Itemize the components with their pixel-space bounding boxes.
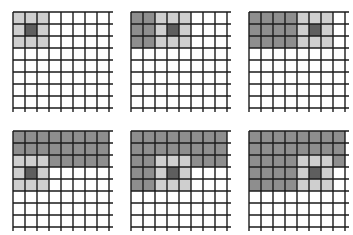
kernel-cell [25,155,37,167]
grid-cell-processed [167,131,179,143]
grid-cell-processed [37,131,49,143]
kernel-cell [179,12,191,24]
kernel-cell [37,24,49,36]
kernel-cell [179,179,191,191]
grid-cell-processed [85,143,97,155]
grid-cell-processed [97,143,109,155]
grid-cell-processed [167,143,179,155]
grid-cell-processed [285,167,297,179]
grid-cell-processed [131,143,143,155]
grid-cell-processed [131,155,143,167]
kernel-center-cell [167,24,179,36]
grid-cell-processed [249,24,261,36]
grid-cell-processed [273,155,285,167]
grid-cell-processed [61,131,73,143]
kernel-cell [37,12,49,24]
grid-cell-processed [203,131,215,143]
grid-cell-processed [249,179,261,191]
grid-cell-processed [13,143,25,155]
grid-cell-processed [73,143,85,155]
kernel-cell [321,12,333,24]
grid-panel-step-5 [131,131,235,235]
kernel-center-cell [167,167,179,179]
kernel-cell [297,167,309,179]
grid-cell-processed [131,36,143,48]
grid-cell-processed [73,131,85,143]
grid-cell-processed [179,143,191,155]
grid-cell-processed [25,143,37,155]
grid-cell-processed [249,155,261,167]
grid-panel-step-1 [13,12,117,116]
grid-cell-processed [97,131,109,143]
grid-cell-processed [273,143,285,155]
grid-cell-processed [143,167,155,179]
kernel-cell [167,12,179,24]
grid-cell-processed [215,131,227,143]
kernel-cell [309,179,321,191]
kernel-cell [321,179,333,191]
kernel-cell [297,12,309,24]
kernel-cell [321,155,333,167]
kernel-cell [321,167,333,179]
grid-cell-processed [285,12,297,24]
grid-cell-processed [309,143,321,155]
kernel-cell [37,167,49,179]
grid-cell-processed [85,131,97,143]
grid-cell-processed [285,143,297,155]
grid-cell-processed [273,12,285,24]
grid-cell-processed [261,24,273,36]
kernel-cell [309,155,321,167]
kernel-cell [37,155,49,167]
kernel-cell [13,36,25,48]
grid-cell-processed [249,131,261,143]
grid-cell-processed [285,155,297,167]
grid-cell-processed [249,143,261,155]
grid-cell-processed [37,143,49,155]
grid-cell-processed [143,12,155,24]
grid-cell-processed [49,131,61,143]
kernel-center-cell [25,167,37,179]
grid-cell-processed [261,131,273,143]
kernel-cell [155,167,167,179]
kernel-cell [309,12,321,24]
grid-panel-step-4 [13,131,117,235]
grid-cell-processed [333,131,345,143]
grid-cell-processed [285,24,297,36]
grid-cell-processed [215,143,227,155]
kernel-cell [155,12,167,24]
kernel-cell [13,179,25,191]
grid-cell-processed [131,12,143,24]
kernel-cell [37,179,49,191]
kernel-cell [167,179,179,191]
kernel-cell [155,36,167,48]
kernel-cell [37,36,49,48]
grid-cell-processed [191,143,203,155]
grid-cell-processed [333,155,345,167]
grid-cell-processed [61,155,73,167]
kernel-cell [179,36,191,48]
grid-cell-processed [13,131,25,143]
grid-cell-processed [261,179,273,191]
grid-cell-processed [285,179,297,191]
grid-panel-step-6 [249,131,353,235]
grid-cell-processed [49,143,61,155]
grid-cell-processed [143,131,155,143]
grid-cell-processed [49,155,61,167]
grid-cell-processed [97,155,109,167]
grid-cell-processed [261,155,273,167]
grid-panel-step-2 [131,12,235,116]
grid-cell-processed [131,24,143,36]
grid-cell-processed [203,155,215,167]
grid-cell-processed [131,179,143,191]
kernel-center-cell [25,24,37,36]
kernel-cell [25,36,37,48]
grid-cell-processed [297,131,309,143]
kernel-cell [309,36,321,48]
kernel-cell [13,12,25,24]
grid-cell-processed [131,167,143,179]
kernel-cell [179,155,191,167]
grid-cell-processed [273,167,285,179]
grid-cell-processed [273,179,285,191]
kernel-cell [297,155,309,167]
grid-cell-processed [155,131,167,143]
